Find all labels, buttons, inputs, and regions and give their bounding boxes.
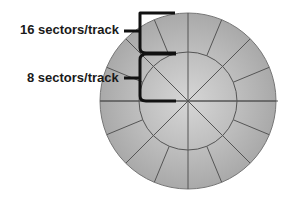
label-16-sectors-per-track: 16 sectors/track [20,23,119,37]
label-8-sectors-per-track: 8 sectors/track [27,71,119,85]
